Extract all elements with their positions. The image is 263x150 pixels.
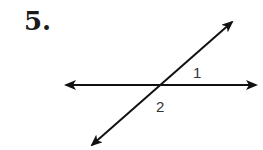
diagram-canvas: 5. 1 2 — [0, 0, 263, 150]
angle-label-2: 2 — [156, 98, 164, 115]
angle-label-1: 1 — [193, 64, 201, 81]
intersecting-lines-diagram: 1 2 — [0, 0, 263, 150]
transversal-line — [92, 22, 232, 145]
